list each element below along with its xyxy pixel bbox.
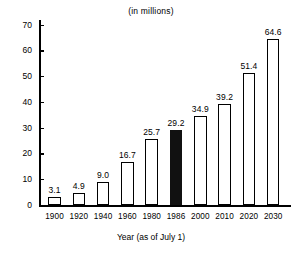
- bar: [145, 139, 158, 205]
- y-axis-tick-label: 30: [2, 124, 32, 133]
- chart-title: (in millions): [0, 6, 302, 16]
- bar-value-label: 64.6: [255, 28, 291, 37]
- bar: [194, 116, 207, 206]
- bar: [243, 73, 256, 205]
- bar-chart: (in millions) 010203040506070 1900192019…: [0, 0, 302, 255]
- bar-value-label: 4.9: [61, 182, 97, 191]
- y-axis-tick: [39, 76, 44, 77]
- y-axis-tick-label: 60: [2, 46, 32, 55]
- y-axis-tick-label: 40: [2, 98, 32, 107]
- y-axis-tick: [39, 179, 44, 180]
- x-axis-title: Year (as of July 1): [0, 232, 302, 242]
- y-axis-tick: [39, 102, 44, 103]
- y-axis-tick: [39, 128, 44, 129]
- bar-value-label: 16.7: [109, 151, 145, 160]
- bar-value-label: 29.2: [158, 119, 194, 128]
- y-axis-tick: [39, 25, 44, 26]
- bar: [170, 130, 183, 205]
- bar: [121, 162, 134, 205]
- bar: [48, 197, 61, 205]
- bar-value-label: 34.9: [182, 105, 218, 114]
- y-axis-tick-label: 70: [2, 21, 32, 30]
- bar-value-label: 51.4: [231, 62, 267, 71]
- y-axis-tick: [39, 50, 44, 51]
- y-axis-tick-label: 20: [2, 149, 32, 158]
- x-axis-tick-label: 2030: [255, 212, 291, 221]
- bar-value-label: 9.0: [85, 171, 121, 180]
- y-axis-tick-label: 50: [2, 72, 32, 81]
- y-axis-tick-label: 0: [2, 201, 32, 210]
- y-axis-tick: [39, 205, 44, 206]
- y-axis-tick: [39, 153, 44, 154]
- bar: [97, 182, 110, 205]
- y-axis-tick-label: 10: [2, 175, 32, 184]
- plot-area: [39, 20, 289, 207]
- bar: [73, 193, 86, 206]
- x-axis-line: [39, 205, 291, 207]
- bar: [218, 104, 231, 205]
- bar: [267, 39, 280, 205]
- bar-value-label: 25.7: [134, 128, 170, 137]
- bar-value-label: 39.2: [207, 93, 243, 102]
